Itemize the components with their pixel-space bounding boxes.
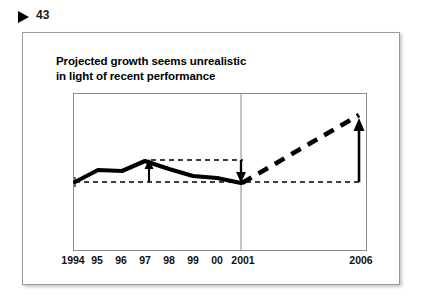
x-tick-label-2001: 2001 bbox=[231, 254, 254, 267]
x-tick-label-1994: 1994 bbox=[61, 254, 84, 267]
x-tick-label-99: 99 bbox=[187, 254, 199, 267]
page-header: 43 bbox=[0, 0, 427, 32]
actual-performance-line bbox=[75, 161, 241, 183]
page-number: 43 bbox=[36, 8, 50, 22]
x-tick-label-96: 96 bbox=[115, 254, 127, 267]
slide-card: Projected growth seems unrealistic in li… bbox=[22, 32, 400, 285]
chart-title-line-2: in light of recent performance bbox=[56, 69, 246, 84]
x-tick-label-98: 98 bbox=[163, 254, 175, 267]
chart-plot-area bbox=[73, 93, 367, 251]
x-tick-label-2006: 2006 bbox=[349, 254, 372, 267]
chart-title: Projected growth seems unrealistic in li… bbox=[56, 54, 246, 83]
x-tick-label-95: 95 bbox=[91, 254, 103, 267]
line-chart-svg bbox=[73, 93, 367, 251]
arrow-up-icon-2006 bbox=[354, 118, 365, 182]
x-axis-labels: 1994 95 96 97 98 99 00 2001 2006 bbox=[73, 254, 373, 270]
x-tick-label-97: 97 bbox=[139, 254, 151, 267]
chart-title-line-1: Projected growth seems unrealistic bbox=[56, 54, 246, 69]
projected-growth-line bbox=[242, 115, 359, 183]
x-tick-label-00: 00 bbox=[211, 254, 223, 267]
play-triangle-icon bbox=[18, 11, 29, 23]
